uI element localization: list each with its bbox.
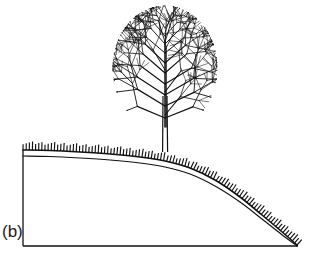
- grass-tick: [148, 151, 149, 158]
- branch: [131, 49, 138, 66]
- panel-label: (b): [2, 222, 23, 242]
- branch: [165, 71, 181, 92]
- branch: [187, 51, 206, 53]
- grass-tick: [142, 149, 143, 158]
- grass-tick: [254, 203, 258, 208]
- branch: [124, 53, 143, 54]
- branch: [113, 70, 118, 78]
- grass-tick: [268, 216, 272, 220]
- branch: [145, 44, 165, 63]
- grass-tick: [164, 152, 165, 161]
- branch: [165, 107, 193, 118]
- grass-tick: [173, 155, 175, 163]
- grass-tick: [108, 146, 109, 154]
- grass-tick: [86, 144, 87, 152]
- grass-tick: [151, 151, 152, 159]
- branch: [184, 37, 203, 38]
- grass-tick: [247, 197, 252, 203]
- grass-tick: [160, 153, 161, 161]
- grass-tick: [191, 162, 194, 168]
- branch: [199, 101, 205, 108]
- branch: [147, 37, 165, 53]
- branch: [199, 101, 209, 102]
- grass-tick: [237, 189, 241, 195]
- branch: [165, 45, 185, 63]
- grass-tick: [167, 155, 169, 161]
- branch: [114, 78, 116, 80]
- grass-tick: [239, 190, 243, 196]
- grass-tick: [111, 148, 112, 154]
- grass-tick: [288, 232, 292, 237]
- grass-tick: [120, 146, 121, 155]
- figure-illustration: [0, 0, 313, 259]
- soil-horizon-line: [23, 156, 297, 246]
- grass-tick: [170, 155, 172, 162]
- grass-tick: [280, 225, 285, 231]
- figure-panel: (b): [0, 0, 313, 259]
- branch: [204, 73, 207, 81]
- branch: [127, 39, 139, 40]
- grass-tick: [136, 150, 137, 157]
- ground-surface-line: [23, 150, 297, 245]
- trunk-edge: [167, 96, 168, 152]
- grass-tick: [278, 224, 282, 229]
- grass-tick: [285, 230, 289, 234]
- branch: [197, 64, 207, 67]
- branch: [194, 92, 211, 97]
- grass-tick: [261, 210, 265, 215]
- grass-tick: [114, 148, 115, 155]
- grass-tick: [129, 148, 130, 156]
- grass-tick: [117, 147, 118, 155]
- grass-tick: [194, 162, 198, 169]
- branch: [137, 106, 165, 118]
- branch: [185, 34, 202, 46]
- branch: [165, 92, 194, 106]
- grass-tick: [295, 238, 299, 243]
- grass-tick: [139, 149, 140, 157]
- grass-tick: [271, 217, 275, 222]
- grass-tick: [213, 172, 217, 179]
- grass-tick: [185, 158, 187, 166]
- grass-tick: [297, 240, 302, 245]
- branch: [127, 106, 137, 110]
- branch: [114, 59, 117, 60]
- grass-tick: [264, 211, 269, 217]
- tree-crown: [113, 6, 217, 127]
- grass-tick: [126, 148, 127, 155]
- branch: [193, 107, 203, 110]
- branch: [201, 82, 212, 90]
- branch: [194, 82, 212, 93]
- grass-tick: [95, 145, 96, 153]
- grass-tick: [221, 178, 225, 184]
- grass-tick: [98, 145, 99, 154]
